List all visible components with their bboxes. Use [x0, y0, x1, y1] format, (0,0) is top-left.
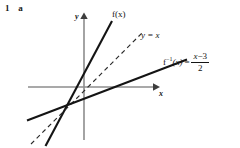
- fraction-numerator: x−3: [191, 52, 209, 62]
- f-inverse-argument: (x): [172, 57, 182, 67]
- x-axis: [28, 83, 160, 91]
- y-axis: [80, 13, 87, 141]
- graph-canvas: [0, 0, 240, 148]
- f-inverse-expression: f−1(x): [163, 58, 182, 67]
- curve-label-f: f(x): [112, 10, 126, 19]
- y-axis-arrowhead: [80, 13, 87, 20]
- equals-sign: =: [184, 58, 189, 67]
- curve-label-identity: y = x: [141, 31, 160, 40]
- curve-f: [46, 21, 113, 146]
- numerator-constant: 3: [203, 51, 208, 61]
- curve-label-f-inverse: f−1(x) = x−3 2: [163, 52, 209, 73]
- fraction: x−3 2: [191, 52, 209, 73]
- figure-page: 1 a f(x) y = x y x f−1(x) = x−3 2: [0, 0, 240, 148]
- fraction-denominator: 2: [196, 63, 205, 73]
- curve-identity-dashed: [31, 32, 143, 144]
- x-axis-label: x: [159, 90, 163, 98]
- y-axis-label: y: [75, 13, 79, 21]
